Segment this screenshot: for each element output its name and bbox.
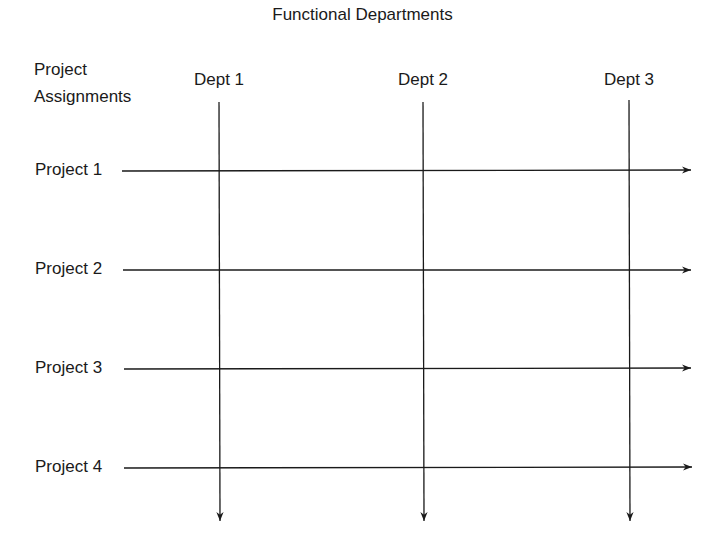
department-line-3	[629, 100, 630, 521]
department-line-1	[219, 102, 220, 521]
department-lines	[219, 100, 630, 521]
project-line-3	[124, 368, 691, 369]
project-line-4	[124, 467, 692, 468]
department-line-2	[423, 102, 424, 521]
project-line-1	[122, 170, 691, 171]
project-lines	[122, 170, 692, 468]
matrix-grid	[0, 0, 725, 542]
